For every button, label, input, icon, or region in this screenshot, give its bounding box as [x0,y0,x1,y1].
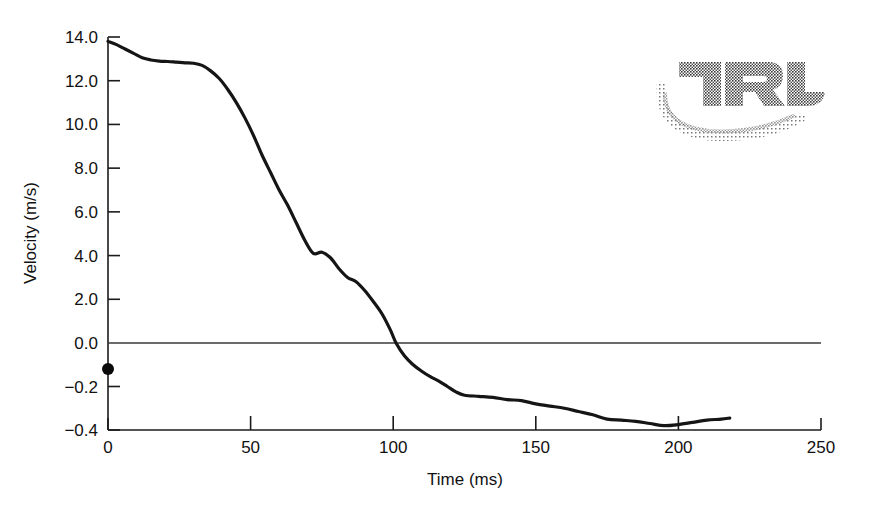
x-tick-label: 100 [379,438,407,457]
y-tick-label: 10.0 [65,115,98,134]
x-axis-title: Time (ms) [427,470,503,489]
x-tick-label: 50 [241,438,260,457]
y-tick-label: 4.0 [74,247,98,266]
y-tick-label: −0.2 [64,378,98,397]
y-axis-title: Velocity (m/s) [21,182,40,284]
x-tick-label: 200 [664,438,692,457]
y-tick-label: 2.0 [74,290,98,309]
y-tick-label: 12.0 [65,72,98,91]
y-tick-label: 0.0 [74,334,98,353]
x-tick-label: 250 [807,438,835,457]
data-point-markers [102,363,114,375]
origin-marker [102,363,114,375]
y-tick-label: 14.0 [65,28,98,47]
chart-figure: 14.012.010.08.06.04.02.00.0−0.2−0.4 0501… [0,0,877,506]
velocity-time-chart: 14.012.010.08.06.04.02.00.0−0.2−0.4 0501… [0,0,877,506]
x-tick-label: 0 [103,438,112,457]
y-tick-label: 8.0 [74,159,98,178]
y-tick-label: −0.4 [64,421,98,440]
y-tick-label: 6.0 [74,203,98,222]
x-tick-label: 150 [522,438,550,457]
